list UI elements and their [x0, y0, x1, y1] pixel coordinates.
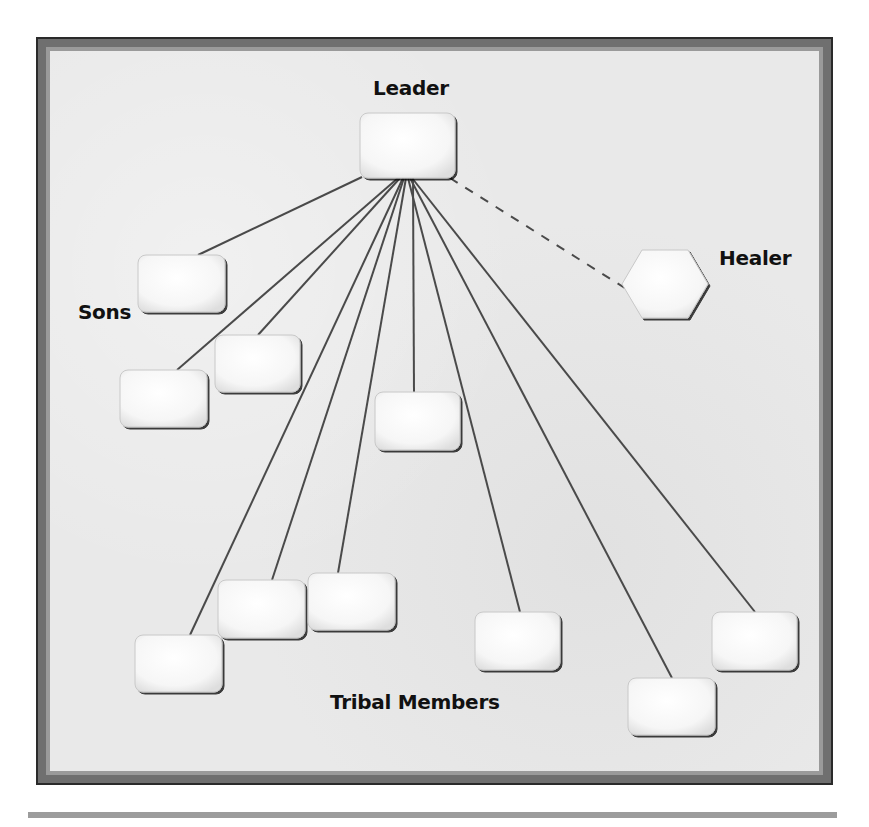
diagram-nodes [120, 113, 797, 735]
healer-label: Healer [719, 246, 791, 270]
tribal-member-node-4 [308, 573, 395, 630]
son-node-1 [138, 255, 225, 312]
bottom-separator [28, 812, 837, 818]
edge-to-member-2 [190, 178, 403, 635]
tribal-member-node-5 [475, 612, 560, 670]
son-node-3 [120, 370, 207, 427]
tribal-member-node-3 [218, 580, 305, 638]
edge-to-healer [450, 178, 628, 290]
son-node-2 [215, 335, 300, 392]
healer-node [622, 250, 708, 318]
tribal-member-node-1 [375, 392, 460, 450]
tribal-member-node-7 [712, 612, 797, 670]
tribal-member-node-6 [628, 678, 715, 735]
edge-to-son-1 [198, 177, 362, 255]
tribal-members-label: Tribal Members [330, 690, 500, 714]
leader-label: Leader [373, 76, 449, 100]
edge-to-member-1 [413, 178, 414, 392]
sons-label: Sons [78, 300, 131, 324]
tribal-member-node-2 [135, 635, 222, 692]
leader-node [360, 113, 455, 178]
edge-to-member-4 [338, 178, 406, 573]
